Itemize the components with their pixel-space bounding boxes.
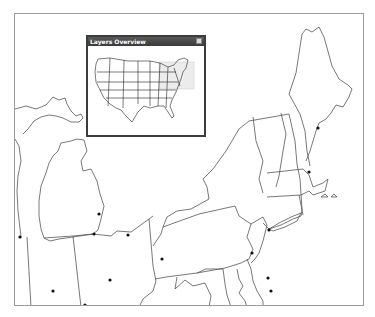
maryland-boundary — [175, 277, 211, 306]
pennsylvania-boundary — [153, 206, 253, 279]
indiana-ohio-line — [73, 236, 81, 306]
massachusetts-boundary — [267, 169, 328, 197]
us-overview-svg — [88, 46, 204, 135]
upper-peninsula-boundary — [15, 97, 83, 134]
overview-titlebar[interactable]: Layers Overview — [88, 37, 204, 46]
ohio-pa-line — [139, 219, 156, 306]
overview-map[interactable] — [88, 46, 204, 135]
new-jersey-boundary — [251, 217, 267, 263]
virginia-line — [197, 269, 231, 306]
long-island — [269, 213, 301, 231]
lower-michigan-boundary — [39, 139, 104, 241]
nantucket — [331, 194, 337, 197]
chesapeake-shore — [237, 269, 247, 306]
wisconsin-shore — [15, 139, 21, 237]
delmarva-boundary — [247, 259, 263, 306]
layers-overview-window[interactable]: Layers Overview — [86, 35, 206, 137]
vt-nh-line — [276, 113, 286, 187]
martha-vineyard — [321, 194, 328, 197]
overview-title: Layers Overview — [90, 38, 146, 45]
close-icon[interactable] — [196, 38, 202, 44]
illinois-indiana-line — [27, 237, 31, 306]
vermont-boundary — [253, 117, 263, 193]
maine-boundary — [289, 27, 352, 161]
